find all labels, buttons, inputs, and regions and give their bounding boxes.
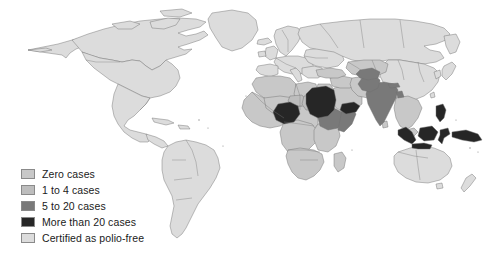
swatch-more-than-20-cases — [21, 217, 35, 227]
legend-label-1-to-4-cases: 1 to 4 cases — [42, 184, 100, 196]
region-papua-new-guinea — [452, 130, 482, 142]
region-taiwan — [430, 92, 435, 98]
map-legend: Zero cases 1 to 4 cases 5 to 20 cases Mo… — [21, 166, 201, 246]
region-sulawesi — [438, 128, 450, 144]
region-ellesmere-island — [160, 9, 192, 17]
region-java — [412, 143, 432, 149]
region-hispaniola — [178, 125, 190, 129]
legend-label-certified-polio-free: Certified as polio-free — [42, 232, 144, 244]
swatch-certified-polio-free — [21, 233, 35, 243]
legend-item-certified-polio-free: Certified as polio-free — [21, 230, 201, 246]
region-iceland — [257, 38, 272, 45]
region-turkey — [316, 68, 346, 78]
region-cuba — [152, 118, 174, 125]
swatch-zero-cases — [21, 169, 35, 179]
legend-item-zero-cases: Zero cases — [21, 166, 201, 182]
polio-world-map-figure: Zero cases 1 to 4 cases 5 to 20 cases Mo… — [0, 0, 490, 260]
region-japan — [442, 62, 456, 80]
legend-label-5-to-20-cases: 5 to 20 cases — [42, 200, 106, 212]
legend-item-more-than-20-cases: More than 20 cases — [21, 214, 201, 230]
region-new-zealand — [461, 174, 476, 192]
region-ireland — [258, 51, 266, 57]
region-southern-africa — [286, 148, 324, 180]
legend-label-more-than-20-cases: More than 20 cases — [42, 216, 136, 228]
region-greenland — [208, 10, 258, 51]
region-borneo — [418, 126, 438, 141]
region-tasmania — [436, 183, 443, 189]
region-nepal — [388, 83, 400, 88]
region-yemen — [340, 102, 360, 114]
swatch-5-to-20-cases — [21, 201, 35, 211]
legend-item-5-to-20-cases: 5 to 20 cases — [21, 198, 201, 214]
region-australia — [394, 146, 452, 183]
region-mainland-southeast-asia — [394, 96, 422, 130]
region-central-america — [146, 134, 168, 148]
region-kamchatka — [444, 34, 460, 54]
region-madagascar — [334, 152, 346, 172]
region-philippines — [436, 104, 446, 122]
swatch-1-to-4-cases — [21, 185, 35, 195]
region-iberia — [256, 64, 278, 77]
legend-label-zero-cases: Zero cases — [42, 168, 95, 180]
legend-item-1-to-4-cases: 1 to 4 cases — [21, 182, 201, 198]
